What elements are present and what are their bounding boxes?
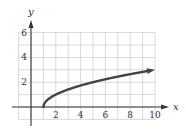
curve-line: [43, 71, 149, 107]
curve-arrowhead-icon: [147, 68, 155, 74]
x-tick-label: 8: [127, 110, 133, 120]
y-tick-label: 6: [21, 28, 27, 38]
x-tick-label: 10: [149, 110, 161, 120]
y-tick-label: 2: [21, 77, 27, 87]
x-tick-label: 6: [103, 110, 109, 120]
x-axis-arrow-icon: [161, 105, 169, 110]
y-axis-arrow-icon: [29, 20, 34, 28]
grid: [19, 33, 155, 120]
function-graph: 246810246 x y: [0, 0, 186, 135]
axes: [12, 20, 169, 126]
x-tick-label: 4: [78, 110, 84, 120]
tick-labels: 246810246: [21, 28, 161, 120]
y-axis-label: y: [27, 6, 34, 17]
x-tick-label: 2: [53, 110, 59, 120]
y-tick-label: 4: [21, 52, 27, 62]
x-axis-label: x: [173, 101, 179, 112]
